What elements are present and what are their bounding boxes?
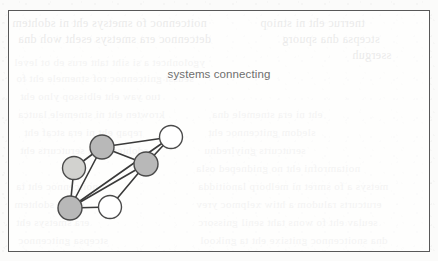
graph-node-e <box>58 196 82 220</box>
graph-node-a <box>90 135 114 159</box>
graph-node-d <box>134 152 158 176</box>
figure-frame: systems connecting <box>8 10 430 252</box>
graph-node-c <box>160 126 183 149</box>
graph-node-b <box>63 157 86 180</box>
network-graph <box>9 11 431 253</box>
graph-node-f <box>99 196 122 219</box>
scanned-page: noitcennoc fo smetsys eht ni sdohtemdetc… <box>0 0 438 261</box>
